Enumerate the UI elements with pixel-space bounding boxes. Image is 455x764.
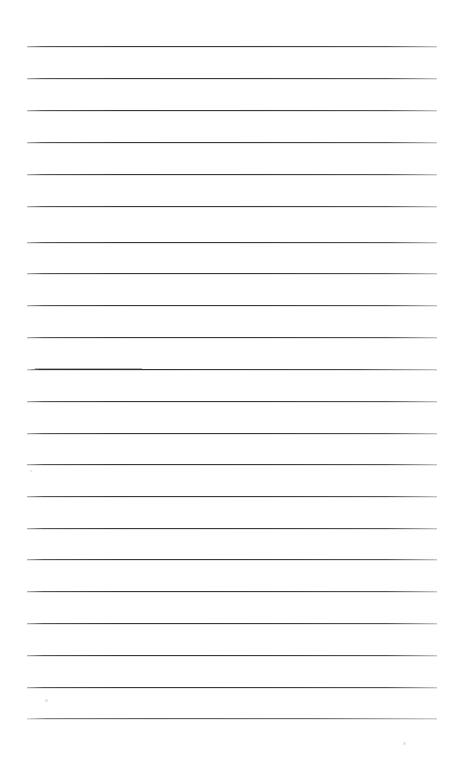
writing-area[interactable] [27,30,437,730]
notebook-page [0,0,455,764]
scan-speck [403,742,406,745]
